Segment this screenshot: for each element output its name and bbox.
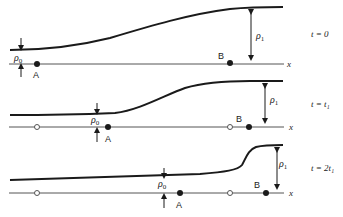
point-b xyxy=(246,124,252,130)
density-curve xyxy=(10,7,283,50)
density-wave-diagram: x ρ0 A B ρ1 t = 0 x ρ0 A B xyxy=(0,0,343,217)
rho0-label: ρ0 xyxy=(157,178,167,191)
previous-position-marker xyxy=(228,125,233,130)
point-a xyxy=(177,190,183,196)
x-axis-label: x xyxy=(288,188,293,198)
previous-position-marker xyxy=(35,191,40,196)
point-a-label: A xyxy=(33,70,39,80)
point-b-label: B xyxy=(236,114,242,124)
point-a xyxy=(34,61,40,67)
point-b-label: B xyxy=(218,51,224,61)
previous-position-marker xyxy=(228,191,233,196)
previous-position-marker xyxy=(35,125,40,130)
panel-2t1: x ρ0 A B ρ1 t = 2t₁ xyxy=(9,145,334,210)
point-a-label: A xyxy=(105,134,111,144)
density-curve xyxy=(10,145,283,180)
rho1-label: ρ1 xyxy=(278,158,288,171)
x-axis-label: x xyxy=(286,59,291,69)
point-b xyxy=(227,60,233,66)
time-label: t = 2t₁ xyxy=(311,163,334,173)
rho0-label: ρ0 xyxy=(90,114,100,127)
x-axis-label: x xyxy=(288,122,293,132)
rho0-label: ρ0 xyxy=(13,52,23,65)
time-label: t = t₁ xyxy=(311,99,330,109)
rho1-label: ρ1 xyxy=(269,94,279,107)
point-b-label: B xyxy=(254,180,260,190)
panel-t0: x ρ0 A B ρ1 t = 0 xyxy=(9,7,329,80)
time-label: t = 0 xyxy=(311,29,329,39)
panel-t1: x ρ0 A B ρ1 t = t₁ xyxy=(9,81,330,144)
point-a xyxy=(105,124,111,130)
rho1-label: ρ1 xyxy=(255,30,265,43)
point-b xyxy=(263,190,269,196)
point-a-label: A xyxy=(176,200,182,210)
density-curve xyxy=(10,81,283,115)
